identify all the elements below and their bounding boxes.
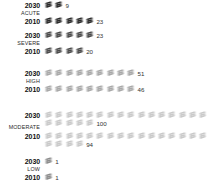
document-stack-icon bbox=[75, 31, 84, 38]
pictogram-row: 201094 bbox=[0, 132, 215, 149]
document-stack-icon bbox=[85, 119, 94, 126]
document-stack-icon bbox=[54, 119, 63, 126]
document-stack-icon bbox=[157, 132, 166, 139]
document-stack-icon bbox=[54, 1, 63, 8]
document-stack-icon bbox=[126, 132, 135, 139]
category-label: ACUTE bbox=[0, 10, 40, 16]
icon-units: 23 bbox=[40, 31, 211, 40]
document-stack-icon bbox=[65, 17, 74, 24]
document-stack-icon bbox=[75, 85, 84, 92]
document-stack-icon bbox=[75, 47, 84, 54]
document-stack-icon bbox=[188, 111, 197, 118]
document-stack-icon bbox=[75, 140, 84, 147]
document-stack-icon bbox=[44, 111, 53, 118]
document-stack-icon bbox=[198, 111, 207, 118]
document-stack-icon bbox=[116, 132, 125, 139]
document-stack-icon bbox=[65, 85, 74, 92]
icon-units: 51 bbox=[40, 69, 211, 78]
pictogram-row: 20101 bbox=[0, 173, 215, 182]
row-year-label: 2010 bbox=[0, 85, 40, 94]
row-year-label: 2010 bbox=[0, 47, 40, 56]
document-stack-icon bbox=[85, 31, 94, 38]
document-stack-icon bbox=[116, 69, 125, 76]
document-stack-icon bbox=[65, 69, 74, 76]
pictogram-row: 201023 bbox=[0, 17, 215, 26]
document-stack-icon bbox=[54, 85, 63, 92]
document-stack-icon bbox=[147, 111, 156, 118]
document-stack-icon bbox=[126, 69, 135, 76]
document-stack-icon bbox=[54, 47, 63, 54]
document-stack-icon bbox=[116, 111, 125, 118]
document-stack-icon bbox=[198, 132, 207, 139]
document-stack-icon bbox=[44, 1, 53, 8]
row-year-label: 2030 bbox=[0, 69, 40, 78]
pictogram-row: 20309 bbox=[0, 1, 215, 10]
row-year-label: 2030 bbox=[0, 111, 40, 120]
document-stack-icon bbox=[65, 119, 74, 126]
document-stack-icon bbox=[126, 111, 135, 118]
document-stack-icon bbox=[95, 85, 104, 92]
category-label: HIGH bbox=[0, 78, 40, 84]
row-value-label: 23 bbox=[95, 17, 103, 26]
row-year-label: 2030 bbox=[0, 1, 40, 10]
document-stack-icon bbox=[44, 140, 53, 147]
document-stack-icon bbox=[85, 69, 94, 76]
document-stack-icon bbox=[188, 132, 197, 139]
document-stack-icon bbox=[44, 47, 53, 54]
document-stack-icon bbox=[54, 140, 63, 147]
document-stack-icon bbox=[54, 17, 63, 24]
document-stack-icon bbox=[106, 111, 115, 118]
document-stack-icon bbox=[65, 31, 74, 38]
row-value-label: 46 bbox=[137, 85, 145, 94]
row-value-label: 94 bbox=[85, 140, 93, 149]
document-stack-icon bbox=[44, 157, 53, 164]
document-stack-icon bbox=[95, 111, 104, 118]
document-stack-icon bbox=[157, 111, 166, 118]
document-stack-icon bbox=[65, 140, 74, 147]
pictogram-chart: ACUTE20309201023SEVERE203023201020HIGH20… bbox=[0, 0, 215, 187]
document-stack-icon bbox=[106, 69, 115, 76]
pictogram-row: 203051 bbox=[0, 69, 215, 78]
row-year-label: 2010 bbox=[0, 17, 40, 26]
document-stack-icon bbox=[137, 132, 146, 139]
document-stack-icon bbox=[116, 85, 125, 92]
document-stack-icon bbox=[75, 17, 84, 24]
row-value-label: 9 bbox=[65, 1, 69, 10]
document-stack-icon bbox=[85, 111, 94, 118]
row-year-label: 2010 bbox=[0, 132, 40, 141]
document-stack-icon bbox=[167, 132, 176, 139]
document-stack-icon bbox=[65, 111, 74, 118]
row-year-label: 2010 bbox=[0, 173, 40, 182]
icon-units: 100 bbox=[40, 111, 211, 128]
document-stack-icon bbox=[95, 132, 104, 139]
document-stack-icon bbox=[54, 132, 63, 139]
row-year-label: 2030 bbox=[0, 31, 40, 40]
document-stack-icon bbox=[126, 85, 135, 92]
row-value-label: 1 bbox=[54, 157, 58, 166]
icon-units: 23 bbox=[40, 17, 211, 26]
pictogram-row: 20301 bbox=[0, 157, 215, 166]
document-stack-icon bbox=[54, 111, 63, 118]
row-value-label: 23 bbox=[95, 31, 103, 40]
pictogram-row: 201020 bbox=[0, 47, 215, 56]
icon-units: 94 bbox=[40, 132, 211, 149]
document-stack-icon bbox=[44, 119, 53, 126]
category-label: SEVERE bbox=[0, 40, 40, 46]
document-stack-icon bbox=[44, 17, 53, 24]
category-label: LOW bbox=[0, 166, 40, 172]
document-stack-icon bbox=[44, 173, 53, 180]
icon-units: 1 bbox=[40, 173, 211, 182]
document-stack-icon bbox=[167, 111, 176, 118]
document-stack-icon bbox=[44, 69, 53, 76]
document-stack-icon bbox=[85, 132, 94, 139]
document-stack-icon bbox=[75, 119, 84, 126]
pictogram-row: 2030100 bbox=[0, 111, 215, 128]
document-stack-icon bbox=[178, 111, 187, 118]
document-stack-icon bbox=[85, 85, 94, 92]
row-value-label: 51 bbox=[137, 69, 145, 78]
document-stack-icon bbox=[75, 111, 84, 118]
row-value-label: 20 bbox=[85, 47, 93, 56]
document-stack-icon bbox=[95, 69, 104, 76]
document-stack-icon bbox=[75, 69, 84, 76]
document-stack-icon bbox=[85, 17, 94, 24]
